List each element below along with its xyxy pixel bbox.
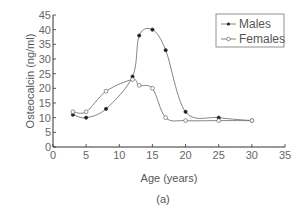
x-tick-label: 25 [213,149,225,161]
x-tick-label: 30 [246,149,258,161]
series-line-females [73,79,252,121]
y-axis-label: Osteocalcin (ng/ml) [24,34,36,129]
legend-females: Females [239,32,285,46]
osteocalcin-chart: 05101520253035051015202530354045 Age (ye… [0,0,306,210]
legend-males: Males [239,17,271,31]
y-tick-label: 30 [39,53,51,65]
data-point-females [131,78,135,82]
y-tick-label: 45 [39,9,51,21]
legend: Males Females [216,14,285,47]
x-tick-label: 20 [179,149,191,161]
data-point-females [104,89,108,93]
x-tick-label: 15 [146,149,158,161]
data-point-males [138,34,141,37]
y-tick-label: 25 [39,68,51,80]
data-point-females [164,116,168,120]
y-tick-label: 40 [39,24,51,36]
males-marker-icon [227,22,230,25]
data-point-males [151,28,154,31]
y-tick-label: 35 [39,38,51,50]
females-marker-icon [227,37,231,41]
x-axis-label: Age (years) [141,172,198,184]
y-tick-label: 15 [39,97,51,109]
data-point-females [184,119,188,123]
y-tick-label: 20 [39,82,51,94]
data-point-females [71,110,75,114]
data-point-males [104,107,107,110]
x-tick-label: 35 [279,149,291,161]
y-tick-label: 10 [39,112,51,124]
data-point-females [217,119,221,123]
x-tick-label: 5 [83,149,89,161]
data-point-males [164,49,167,52]
data-point-females [84,110,88,114]
y-tick-label: 0 [45,141,51,153]
data-point-males [85,116,88,119]
y-tick-label: 5 [45,126,51,138]
data-point-females [137,84,141,88]
x-tick-label: 10 [113,149,125,161]
data-point-males [184,110,187,113]
data-point-females [151,86,155,90]
data-point-females [250,119,254,123]
caption: (a) [156,193,169,205]
